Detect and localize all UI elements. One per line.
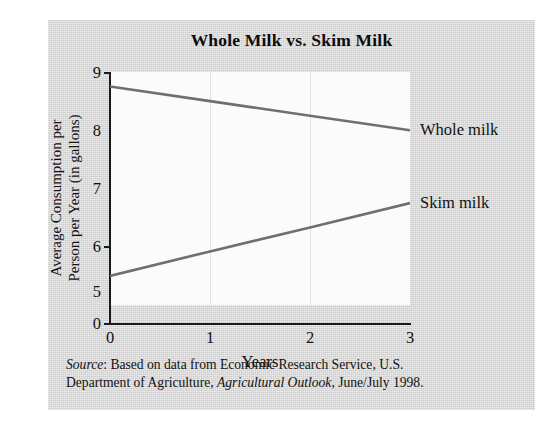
series-label-skim-milk: Skim milk — [420, 193, 489, 213]
y-tick-label-9: 9 — [93, 63, 101, 83]
plot-area: 9 8 7 6 5 0 0 1 2 3 Years Average Consum… — [110, 72, 410, 325]
line-whole-milk — [110, 87, 410, 131]
x-tick-label-3: 3 — [406, 328, 414, 348]
y-axis-title: Average Consumption per Person per Year … — [48, 114, 83, 281]
y-tick-0 — [104, 323, 110, 325]
y-tick-label-5: 5 — [93, 282, 101, 302]
figure-panel: Whole Milk vs. Skim Milk 9 8 7 6 5 0 0 1… — [48, 20, 535, 410]
chart-title: Whole Milk vs. Skim Milk — [48, 30, 535, 51]
y-tick-label-6: 6 — [93, 237, 101, 257]
source-prefix: Source — [66, 357, 103, 372]
series-label-whole-milk: Whole milk — [420, 120, 498, 140]
y-tick-label-7: 7 — [93, 179, 101, 199]
y-axis-break-label: 0 — [93, 314, 101, 334]
source-line2-post: , June/July 1998. — [331, 375, 423, 390]
source-publication: Agricultural Outlook — [217, 375, 331, 390]
x-axis-line — [109, 323, 411, 325]
line-skim-milk — [110, 203, 410, 276]
source-line1-rest: : Based on data from Economic Research S… — [103, 357, 403, 372]
x-tick-label-0: 0 — [106, 328, 114, 348]
y-axis-title-line2: Person per Year (in gallons) — [66, 114, 84, 281]
x-tick-label-1: 1 — [206, 328, 214, 348]
series-lines — [110, 72, 410, 305]
x-tick-label-2: 2 — [306, 328, 314, 348]
source-line2-pre: Department of Agriculture, — [66, 375, 217, 390]
y-axis-title-line1: Average Consumption per — [48, 114, 66, 281]
y-tick-label-8: 8 — [93, 121, 101, 141]
source-note: Source: Based on data from Economic Rese… — [66, 356, 518, 391]
